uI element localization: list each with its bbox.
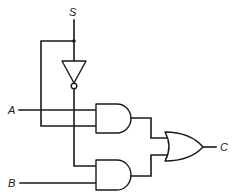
not-gate-bubble [71, 83, 77, 89]
wire-and1-to-or [131, 118, 168, 138]
label-b: B [8, 177, 15, 189]
and-gate-2 [96, 160, 131, 190]
wire-snot-to-and2 [74, 89, 96, 166]
and-gate-1 [96, 104, 131, 133]
wire-and2-to-or [131, 155, 168, 176]
label-s: S [69, 6, 77, 18]
label-c: C [220, 141, 228, 153]
or-gate [165, 132, 203, 161]
not-gate [62, 61, 86, 83]
label-a: A [7, 104, 15, 116]
logic-circuit-diagram: S A B C [0, 0, 234, 196]
wire-s-to-and1 [41, 41, 96, 126]
